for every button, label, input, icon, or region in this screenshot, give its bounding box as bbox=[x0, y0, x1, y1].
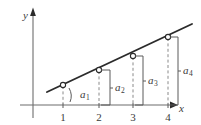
bracket-a3-letter: a bbox=[148, 74, 154, 86]
data-point-4 bbox=[165, 34, 170, 39]
bracket-a2-subscript: 2 bbox=[121, 86, 125, 95]
bracket-a2-label: a2 bbox=[115, 81, 125, 95]
bracket-a3: a3 bbox=[135, 56, 158, 105]
bracket-a1: a1 bbox=[69, 88, 90, 102]
dashed-drop-lines bbox=[63, 38, 168, 103]
bracket-a4-label: a4 bbox=[183, 64, 193, 78]
x-axis-label: x bbox=[178, 102, 184, 114]
data-point-1 bbox=[60, 82, 65, 87]
y-axis bbox=[30, 8, 36, 119]
figure-container: y x 1 2 3 4 bbox=[0, 0, 201, 125]
bracket-a4: a4 bbox=[170, 37, 193, 105]
sequence-line-graph: y x 1 2 3 4 bbox=[0, 0, 201, 125]
x-tick-label-3: 3 bbox=[130, 111, 136, 123]
x-tick-label-1: 1 bbox=[60, 111, 66, 123]
bracket-a4-letter: a bbox=[183, 64, 189, 76]
data-point-3 bbox=[130, 53, 135, 58]
bracket-a4-subscript: 4 bbox=[189, 69, 193, 78]
bracket-a3-subscript: 3 bbox=[154, 79, 158, 88]
y-axis-arrowhead bbox=[30, 8, 36, 17]
bracket-a1-subscript: 1 bbox=[86, 93, 90, 102]
x-tick-label-4: 4 bbox=[165, 111, 171, 123]
data-point-2 bbox=[96, 67, 101, 72]
y-axis-label: y bbox=[22, 9, 28, 21]
bracket-a1-letter: a bbox=[80, 88, 86, 100]
x-tick-label-2: 2 bbox=[96, 111, 102, 123]
bracket-a2: a2 bbox=[101, 70, 125, 105]
bracket-a1-arc bbox=[69, 88, 71, 102]
bracket-a3-label: a3 bbox=[148, 74, 158, 88]
bracket-a1-label: a1 bbox=[80, 88, 90, 102]
bracket-a2-letter: a bbox=[115, 81, 121, 93]
